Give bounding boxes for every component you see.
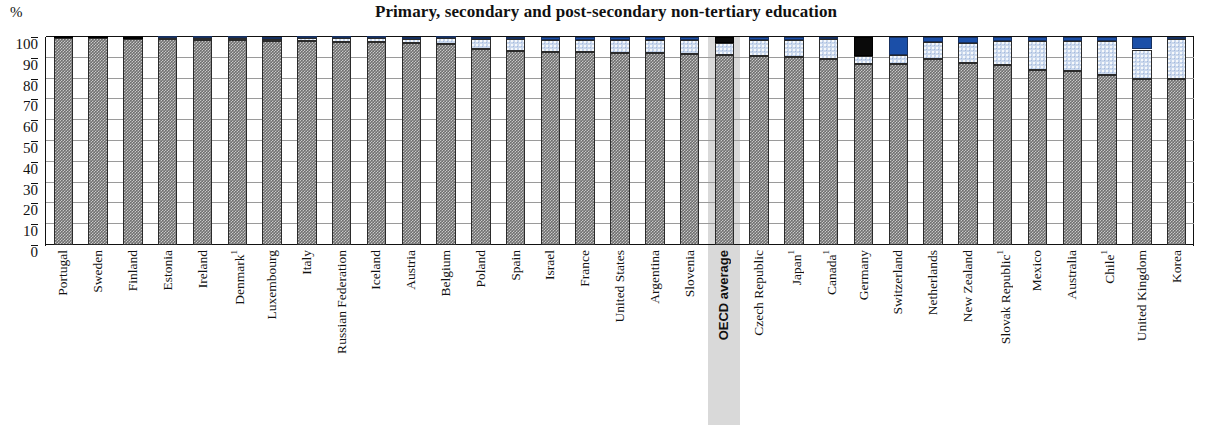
- x-axis-label-ireland: Ireland: [196, 250, 210, 288]
- chart-title: Primary, secondary and post-secondary no…: [0, 2, 1212, 22]
- bar-segment-lower: [193, 40, 212, 245]
- bar-segment-middle: [610, 40, 629, 52]
- bar-segment-middle: [193, 38, 212, 40]
- bar-segment-upper: [1028, 37, 1047, 41]
- x-axis-label-italy: Italy: [300, 250, 314, 275]
- bar-segment-lower: [158, 39, 177, 245]
- bar-segment-upper: [158, 36, 177, 38]
- bar[interactable]: [645, 37, 664, 245]
- bar-segment-lower: [1132, 79, 1151, 245]
- x-axis-label-portugal: Portugal: [56, 250, 70, 296]
- bar-segment-upper: [367, 36, 386, 38]
- x-axis-label-united-states: United States: [613, 250, 627, 322]
- bar-segment-lower: [645, 53, 664, 245]
- bar[interactable]: [332, 37, 351, 245]
- bar-segment-upper: [610, 37, 629, 40]
- bar-segment-middle: [889, 55, 908, 64]
- y-tick-mark-20: [31, 203, 38, 204]
- y-axis-unit-label: %: [10, 4, 23, 21]
- bar-segment-upper: [262, 37, 281, 39]
- bar-segment-upper: [1063, 37, 1082, 41]
- bar[interactable]: [88, 37, 107, 245]
- x-axis-label-czech-republic: Czech Republic: [752, 250, 766, 336]
- bar-segment-middle: [749, 40, 768, 56]
- bar-segment-upper: [923, 37, 942, 42]
- bar-segment-upper-highlighted: [123, 37, 142, 39]
- bar-segment-upper: [1132, 37, 1151, 49]
- x-axis-label-sweden: Sweden: [91, 250, 105, 293]
- bar-segment-middle: [958, 43, 977, 63]
- x-axis-label-new-zealand: New Zealand: [961, 250, 975, 322]
- bar[interactable]: [1167, 37, 1186, 245]
- bar[interactable]: [819, 37, 838, 245]
- bar[interactable]: [541, 37, 560, 245]
- bar[interactable]: [958, 37, 977, 245]
- bar[interactable]: [1132, 37, 1151, 245]
- bar-segment-lower: [1097, 75, 1116, 245]
- bar-segment-middle: [1132, 50, 1151, 79]
- bar[interactable]: [575, 37, 594, 245]
- y-tick-mark-90: [31, 58, 38, 59]
- y-tick-mark-0: [31, 245, 38, 246]
- x-axis-label-iceland: Iceland: [369, 250, 383, 290]
- x-axis-label-spain: Spain: [509, 250, 523, 281]
- bar[interactable]: [54, 37, 73, 245]
- bar[interactable]: [610, 37, 629, 245]
- bar-segment-middle: [471, 39, 490, 49]
- bar-segment-middle: [1028, 41, 1047, 70]
- y-axis-tick-labels: 0102030405060708090100: [0, 37, 38, 245]
- bar[interactable]: [297, 37, 316, 245]
- bar-segment-upper: [749, 37, 768, 40]
- y-tick-mark-60: [31, 120, 38, 121]
- bar[interactable]: [993, 37, 1012, 245]
- bar-segment-lower: [854, 64, 873, 245]
- bar[interactable]: [158, 37, 177, 245]
- x-axis-label-poland: Poland: [474, 250, 488, 288]
- chart-root: Primary, secondary and post-secondary no…: [0, 0, 1212, 430]
- bar-segment-lower: [923, 59, 942, 245]
- x-axis-label-argentina: Argentina: [648, 250, 662, 304]
- bar-segment-upper: [819, 37, 838, 39]
- x-axis-label-finland: Finland: [126, 250, 140, 291]
- x-axis-label-japan: Japan1: [787, 250, 803, 285]
- bar-segment-lower: [1063, 71, 1082, 245]
- bar-segment-lower: [88, 38, 107, 245]
- plot-area: [46, 37, 1194, 245]
- bar[interactable]: [402, 37, 421, 245]
- bar[interactable]: [436, 37, 455, 245]
- bar-segment-lower: [332, 42, 351, 245]
- bar-segment-middle: [993, 41, 1012, 65]
- bar-segment-upper: [471, 37, 490, 39]
- bar[interactable]: [471, 37, 490, 245]
- bar-segment-lower: [262, 41, 281, 245]
- bar-segment-lower: [610, 53, 629, 245]
- bar-segment-upper: [332, 36, 351, 38]
- bar-segment-lower: [297, 41, 316, 245]
- bar-segment-middle: [332, 38, 351, 42]
- bar[interactable]: [123, 37, 142, 245]
- bar[interactable]: [784, 37, 803, 245]
- bar-segment-middle: [436, 38, 455, 44]
- bar[interactable]: [506, 37, 525, 245]
- bar[interactable]: [1028, 37, 1047, 245]
- bar[interactable]: [1063, 37, 1082, 245]
- bar[interactable]: [889, 37, 908, 245]
- x-axis-label-canada: Canada1: [822, 250, 838, 295]
- x-axis-label-korea: Korea: [1170, 250, 1184, 283]
- bar[interactable]: [367, 37, 386, 245]
- bar[interactable]: [193, 37, 212, 245]
- bar[interactable]: [715, 37, 734, 245]
- bar[interactable]: [749, 37, 768, 245]
- bar[interactable]: [262, 37, 281, 245]
- bar[interactable]: [854, 37, 873, 245]
- bar[interactable]: [228, 37, 247, 245]
- bar[interactable]: [1097, 37, 1116, 245]
- bar[interactable]: [680, 37, 699, 245]
- bar[interactable]: [923, 37, 942, 245]
- bar-segment-lower: [228, 40, 247, 245]
- x-axis-label-switzerland: Switzerland: [891, 250, 905, 314]
- bar-segment-lower: [123, 39, 142, 245]
- bar-segment-upper: [297, 36, 316, 38]
- bar-segment-lower: [993, 65, 1012, 245]
- bar-segment-middle: [1167, 39, 1186, 79]
